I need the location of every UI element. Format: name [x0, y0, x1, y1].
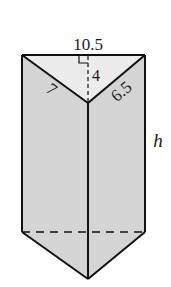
label-triangle-height: 4 [92, 67, 100, 84]
label-prism-height: h [153, 130, 163, 151]
triangular-prism-diagram: 10.5 4 7 6.5 h [0, 0, 171, 287]
label-base-width: 10.5 [73, 35, 103, 54]
